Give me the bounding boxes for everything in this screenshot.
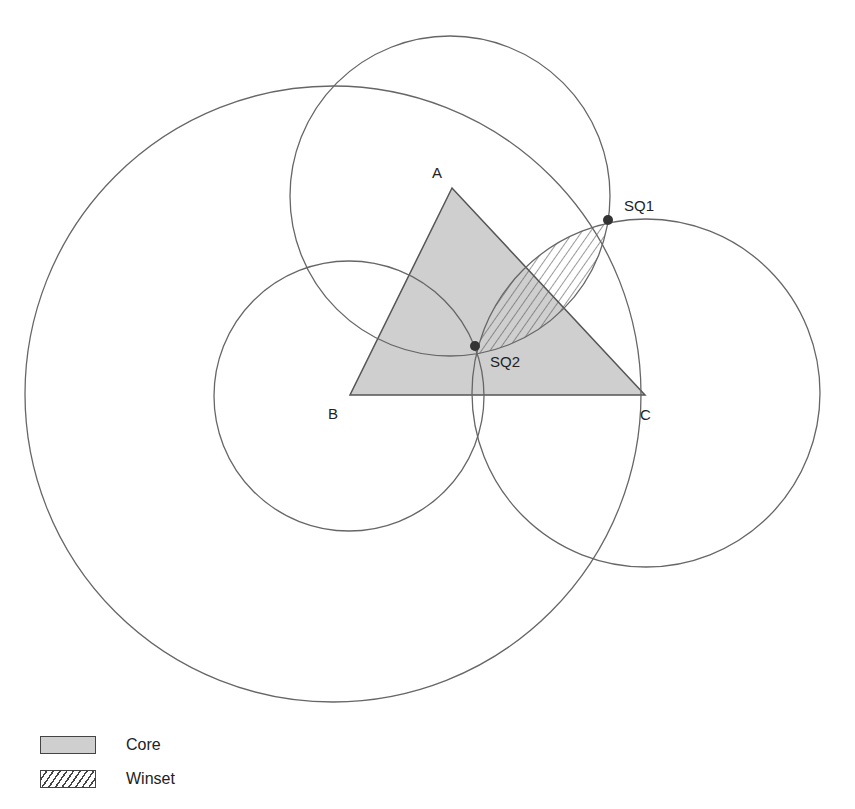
label-sq1: SQ1: [624, 197, 654, 214]
sq1-point: [603, 215, 613, 225]
legend: Core Winset: [40, 730, 175, 798]
core-swatch-icon: [40, 736, 96, 754]
legend-label-winset: Winset: [126, 770, 175, 788]
spatial-voting-diagram: A B C SQ1 SQ2: [0, 0, 855, 809]
legend-item-core: Core: [40, 730, 175, 760]
legend-label-core: Core: [126, 736, 161, 754]
legend-item-winset: Winset: [40, 764, 175, 794]
label-sq2: SQ2: [490, 353, 520, 370]
winset-swatch-icon: [40, 770, 96, 788]
label-b: B: [328, 405, 338, 422]
label-a: A: [432, 164, 442, 181]
label-c: C: [640, 406, 651, 423]
sq2-point: [470, 341, 480, 351]
